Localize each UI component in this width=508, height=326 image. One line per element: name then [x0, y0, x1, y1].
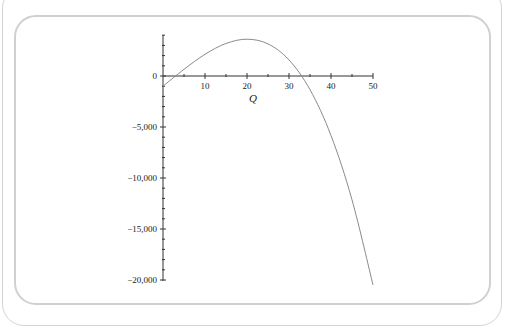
axes	[163, 35, 373, 281]
x-tick-label: 10	[201, 81, 211, 91]
y-tick-label: 0	[153, 71, 158, 81]
y-tick-label: −5,000	[132, 122, 158, 132]
x-tick-label: 20	[243, 81, 253, 91]
x-tick-label: 40	[327, 81, 337, 91]
y-tick-label: −10,000	[127, 173, 157, 183]
y-tick-label: −20,000	[127, 275, 157, 285]
tick-marks	[160, 35, 373, 280]
x-tick-label: 30	[285, 81, 295, 91]
x-tick-label: 50	[369, 81, 379, 91]
y-tick-label: −15,000	[127, 224, 157, 234]
x-axis-label: Q	[249, 92, 257, 104]
